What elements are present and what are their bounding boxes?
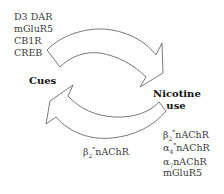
list-item: α7nAChR [163, 156, 210, 167]
nicotine-receptor-list: β2*nAChR α4*nAChR α7nAChR mGluR5 [163, 128, 210, 178]
list-item: mGluR5 [163, 167, 210, 178]
list-item: CREB [14, 47, 53, 59]
list-item: mGluR5 [14, 23, 53, 35]
nicotine-use-node-label: Nicotine use [153, 88, 199, 112]
nicotine-label-line1: Nicotine [153, 88, 199, 100]
bottom-receptor-label: β2*nAChR [83, 146, 129, 158]
cues-receptor-list: D3 DAR mGluR5 CB1R CREB [14, 11, 53, 59]
list-item: CB1R [14, 35, 53, 47]
cues-to-nicotine-arrow [47, 29, 163, 87]
list-item: α4*nAChR [163, 141, 210, 154]
list-item: β2*nAChR [163, 128, 210, 141]
cues-node-label: Cues [29, 75, 56, 87]
nicotine-label-line2: use [153, 100, 199, 112]
nicotine-to-cues-arrow [46, 85, 166, 138]
list-item: D3 DAR [14, 11, 53, 23]
cue-nicotine-cycle-diagram: D3 DAR mGluR5 CB1R CREB Cues Nicotine us… [0, 0, 224, 194]
